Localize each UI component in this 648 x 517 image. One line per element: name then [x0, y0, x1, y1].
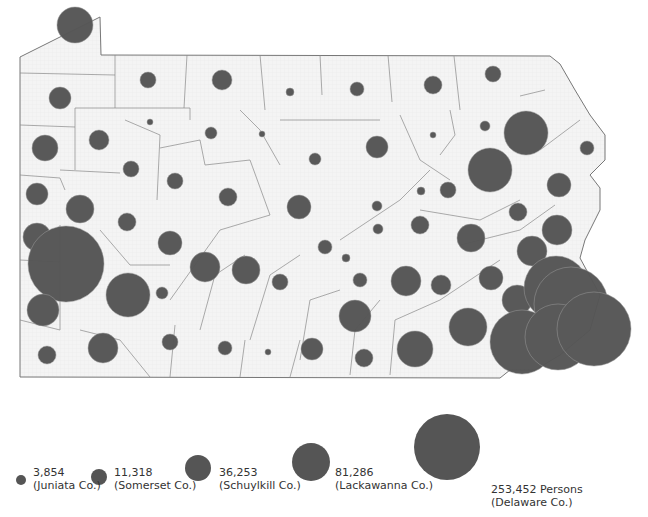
- county-population-circle: [147, 119, 153, 125]
- county-population-circle: [411, 216, 429, 234]
- county-population-circle: [557, 292, 631, 366]
- county-population-circle: [212, 70, 232, 90]
- county-population-circle: [123, 161, 139, 177]
- county-population-circle: [27, 294, 59, 326]
- county-population-circle: [287, 195, 311, 219]
- legend-item-3: 36,253 (Schuylkill Co.): [219, 466, 301, 492]
- county-population-circle: [342, 254, 350, 262]
- county-population-circle: [265, 349, 271, 355]
- county-population-circle: [479, 266, 503, 290]
- county-population-circle: [580, 141, 594, 155]
- county-population-circle: [26, 183, 48, 205]
- legend-item-4: 81,286 (Lackawanna Co.): [335, 466, 433, 492]
- county-population-circle: [318, 240, 332, 254]
- county-population-circle: [457, 224, 485, 252]
- county-population-circle: [547, 173, 571, 197]
- county-population-circle: [49, 87, 71, 109]
- county-population-circle: [205, 127, 217, 139]
- county-population-circle: [449, 308, 487, 346]
- county-population-circle: [430, 132, 436, 138]
- county-population-circle: [88, 333, 118, 363]
- county-population-circle: [259, 131, 265, 137]
- county-population-circle: [162, 334, 178, 350]
- county-population-circle: [190, 252, 220, 282]
- county-population-circle: [366, 136, 388, 158]
- county-population-circle: [542, 215, 572, 245]
- county-population-circle: [232, 256, 260, 284]
- legend-symbol-circle: [16, 475, 26, 485]
- county-population-circle: [431, 275, 451, 295]
- county-population-circle: [89, 130, 109, 150]
- county-population-circle: [28, 226, 104, 302]
- county-population-circle: [32, 135, 58, 161]
- county-population-circle: [480, 121, 490, 131]
- county-population-circle: [504, 111, 548, 155]
- county-population-circle: [218, 341, 232, 355]
- legend-item-2: 11,318 (Somerset Co.): [114, 466, 196, 492]
- county-population-circle: [106, 273, 150, 317]
- county-population-circle: [417, 187, 425, 195]
- county-population-circle: [140, 72, 156, 88]
- county-population-circle: [440, 182, 456, 198]
- county-population-circle: [219, 188, 237, 206]
- county-population-circle: [350, 82, 364, 96]
- county-population-circle: [118, 213, 136, 231]
- county-population-circle: [167, 173, 183, 189]
- pennsylvania-county-map: [0, 0, 648, 517]
- county-population-circle: [391, 266, 421, 296]
- county-population-circle: [353, 273, 367, 287]
- county-population-circle: [373, 224, 383, 234]
- county-population-circle: [156, 287, 168, 299]
- county-population-circle: [66, 195, 94, 223]
- county-population-circle: [272, 274, 288, 290]
- county-population-circle: [424, 76, 442, 94]
- legend-item-1: 3,854 (Juniata Co.): [33, 466, 101, 492]
- county-population-circle: [286, 88, 294, 96]
- county-population-circle: [355, 349, 373, 367]
- county-population-circle: [509, 203, 527, 221]
- legend-item-5: 253,452 Persons (Delaware Co.): [491, 483, 583, 509]
- county-population-circle: [301, 338, 323, 360]
- county-population-circle: [38, 346, 56, 364]
- county-population-circle: [57, 7, 93, 43]
- county-population-circle: [468, 148, 512, 192]
- county-population-circle: [339, 300, 371, 332]
- county-population-circle: [397, 331, 433, 367]
- county-population-circle: [485, 66, 501, 82]
- county-population-circle: [158, 231, 182, 255]
- county-population-circle: [372, 201, 382, 211]
- county-population-circle: [309, 153, 321, 165]
